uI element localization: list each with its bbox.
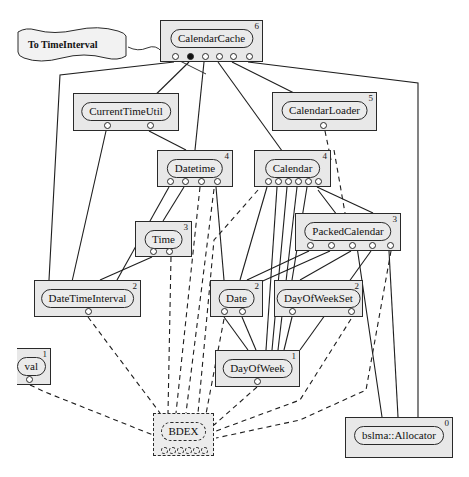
node-label-date-time-interval: DateTimeInterval (41, 289, 135, 308)
port-datetime-1[interactable] (182, 178, 189, 185)
node-label-bdex: BDEX (161, 422, 207, 441)
node-label-date: Date (218, 289, 255, 308)
node-bslma-allocator[interactable]: 0bslma::Allocator (345, 417, 453, 458)
port-interval-clipped-0[interactable] (26, 376, 33, 383)
node-level-badge: 3 (184, 222, 189, 232)
port-packed-calendar-0[interactable] (307, 242, 314, 249)
port-calendar-3[interactable] (295, 178, 302, 185)
node-layer: 6CalendarCacheCurrentTimeUtil5CalendarLo… (0, 0, 469, 477)
node-datetime[interactable]: 4Datetime (157, 150, 233, 187)
node-level-badge: 1 (292, 351, 297, 361)
port-bdex-0[interactable] (161, 447, 168, 454)
port-calendar-cache-3[interactable] (216, 53, 223, 60)
component-dependency-diagram: 6CalendarCacheCurrentTimeUtil5CalendarLo… (0, 0, 469, 477)
port-calendar-5[interactable] (315, 178, 322, 185)
port-datetime-2[interactable] (198, 178, 205, 185)
node-calendar-loader[interactable]: 5CalendarLoader (272, 92, 377, 131)
port-date-0[interactable] (221, 308, 228, 315)
port-calendar-cache-1[interactable] (187, 53, 194, 60)
port-datetime-3[interactable] (214, 178, 221, 185)
node-label-current-time-util: CurrentTimeUtil (81, 102, 171, 121)
port-calendar-2[interactable] (285, 178, 292, 185)
port-calendar-4[interactable] (305, 178, 312, 185)
port-bdex-5[interactable] (201, 447, 208, 454)
port-day-of-week-0[interactable] (254, 378, 261, 385)
node-date[interactable]: 2Date (210, 280, 263, 317)
node-date-time-interval[interactable]: 2DateTimeInterval (34, 280, 141, 317)
node-label-day-of-week-set: DayOfWeekSet (276, 289, 361, 308)
node-label-calendar-loader: CalendarLoader (281, 101, 368, 120)
port-time-1[interactable] (166, 248, 173, 255)
port-calendar-cache-2[interactable] (202, 53, 209, 60)
node-label-interval-clipped: val (17, 357, 46, 376)
node-level-badge: 1 (43, 349, 48, 359)
node-label-calendar-cache: CalendarCache (170, 29, 253, 48)
node-level-badge: 2 (255, 281, 260, 291)
node-day-of-week-set[interactable]: 2DayOfWeekSet (274, 280, 363, 317)
port-calendar-1[interactable] (275, 178, 282, 185)
node-label-packed-calendar: PackedCalendar (304, 222, 391, 241)
port-date-1[interactable] (239, 308, 246, 315)
port-current-time-util-0[interactable] (104, 122, 111, 129)
node-current-time-util[interactable]: CurrentTimeUtil (73, 93, 179, 131)
node-label-time: Time (144, 230, 183, 249)
port-bdex-4[interactable] (193, 447, 200, 454)
node-packed-calendar[interactable]: 3PackedCalendar (295, 213, 401, 251)
port-bdex-1[interactable] (169, 447, 176, 454)
port-calendar-0[interactable] (265, 178, 272, 185)
node-level-badge: 4 (323, 151, 328, 161)
port-datetime-0[interactable] (167, 178, 174, 185)
node-time[interactable]: 3Time (135, 221, 192, 257)
node-interval-clipped[interactable]: 1val (17, 348, 51, 385)
port-day-of-week-set-0[interactable] (289, 308, 296, 315)
port-bdex-3[interactable] (185, 447, 192, 454)
node-level-badge: 4 (225, 151, 230, 161)
node-level-badge: 2 (133, 281, 138, 291)
node-calendar[interactable]: 4Calendar (254, 150, 331, 187)
node-label-bslma-allocator: bslma::Allocator (354, 426, 444, 445)
port-calendar-cache-5[interactable] (246, 53, 253, 60)
port-day-of-week-set-1[interactable] (348, 308, 355, 315)
node-level-badge: 3 (393, 214, 398, 224)
node-label-calendar: Calendar (265, 159, 321, 178)
to-timeinterval-banner: To TimeInterval (14, 26, 132, 64)
port-packed-calendar-1[interactable] (328, 242, 335, 249)
node-level-badge: 0 (445, 418, 450, 428)
port-date-time-interval-0[interactable] (85, 308, 92, 315)
node-day-of-week[interactable]: 1DayOfWeek (215, 350, 300, 387)
node-label-day-of-week: DayOfWeek (222, 359, 293, 378)
port-current-time-util-1[interactable] (147, 122, 154, 129)
node-level-badge: 5 (369, 93, 374, 103)
port-packed-calendar-3[interactable] (369, 242, 376, 249)
port-bdex-2[interactable] (177, 447, 184, 454)
banner-label: To TimeInterval (28, 39, 98, 50)
port-time-0[interactable] (150, 248, 157, 255)
port-calendar-cache-0[interactable] (172, 53, 179, 60)
port-packed-calendar-2[interactable] (349, 242, 356, 249)
port-packed-calendar-4[interactable] (387, 242, 394, 249)
port-calendar-loader-0[interactable] (320, 122, 327, 129)
node-level-badge: 6 (255, 21, 260, 31)
node-label-datetime: Datetime (167, 159, 223, 178)
node-calendar-cache[interactable]: 6CalendarCache (160, 20, 263, 62)
port-calendar-cache-4[interactable] (230, 53, 237, 60)
node-bdex[interactable]: BDEX (153, 413, 214, 456)
